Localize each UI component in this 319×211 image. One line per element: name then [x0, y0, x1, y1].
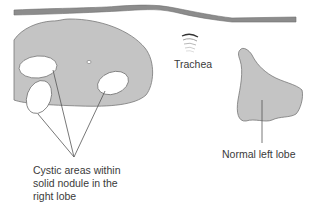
tiny-cyst [87, 60, 91, 63]
skin-surface-band [14, 5, 296, 22]
trachea-icon [182, 34, 198, 52]
ultrasound-thyroid-diagram: Trachea Cystic areas within solid nodule… [0, 0, 319, 211]
cystic-areas-label-line1: Cystic areas within [33, 164, 121, 177]
normal-left-lobe [237, 48, 302, 121]
trachea-label: Trachea [174, 58, 212, 71]
cystic-areas-label-line2: solid nodule in the [33, 177, 121, 190]
cystic-areas-label-line3: right lobe [33, 190, 121, 203]
normal-left-lobe-label: Normal left lobe [222, 148, 296, 161]
cystic-areas-label: Cystic areas within solid nodule in the … [33, 164, 121, 203]
